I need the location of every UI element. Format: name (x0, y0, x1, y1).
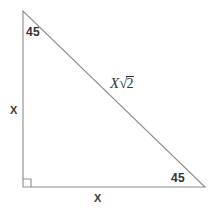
side-label-hypotenuse: X√2 (110, 76, 134, 92)
side-label-left-leg: X (10, 105, 17, 116)
triangle-figure: 45 45 X X X√2 (0, 0, 216, 213)
triangle-shape (23, 11, 205, 187)
right-angle-marker-icon (23, 179, 31, 187)
angle-label-top-left: 45 (26, 26, 40, 38)
side-label-bottom-leg: X (94, 193, 101, 204)
hypotenuse-coefficient: X (110, 75, 119, 91)
square-root-icon: √2 (119, 76, 134, 92)
angle-label-bottom-right: 45 (171, 172, 185, 184)
radicand: 2 (126, 76, 134, 92)
